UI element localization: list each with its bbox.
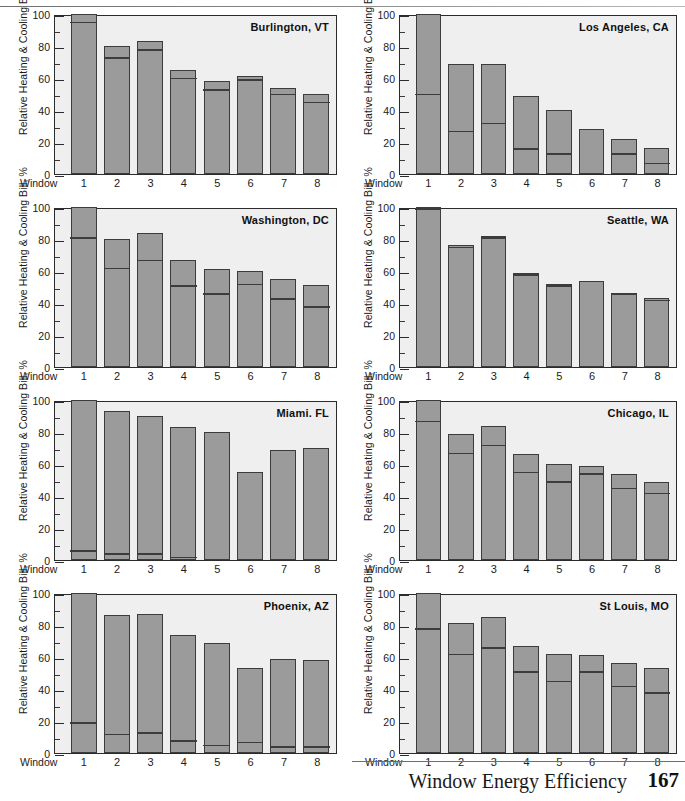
bar-slot [510,209,543,367]
y-axis-ticks: 020406080100 [369,594,399,754]
y-axis-minor-tick [55,160,60,161]
chart-panel: Relative Heating & Cooling Bill, %020406… [0,202,345,395]
y-axis-major-tick [400,112,409,113]
bar [546,110,571,174]
y-axis-major-tick [55,498,64,499]
bar-slot [167,402,200,560]
y-axis-tick-label: 100 [369,588,395,600]
bar [71,400,97,560]
y-axis-minor-tick [55,450,60,451]
x-axis: Window12345678 [345,563,685,579]
bar [416,400,441,560]
bar [448,245,473,367]
y-axis-tick-label: 40 [24,105,50,117]
bar [513,454,538,560]
x-axis-tick-label: 8 [301,177,334,189]
x-axis-tick-label: 3 [134,370,167,382]
y-axis-minor-tick [55,353,60,354]
bar-slot [608,402,641,560]
y-axis-tick-label: 20 [24,523,50,535]
bar-segment-divider [579,671,605,673]
x-axis-tick-label: 7 [609,177,642,189]
y-axis-spine [54,594,64,754]
bar [611,663,636,753]
y-axis-minor-tick [55,128,60,129]
y-axis-tick-label: 20 [369,716,395,728]
y-axis-minor-tick [400,739,405,740]
x-axis-tick-label: 5 [543,563,576,575]
bar-segment-divider [546,681,572,683]
page-top-rule [0,6,685,7]
bar-slot [412,209,445,367]
bar-slot [67,209,100,367]
bar [270,279,296,367]
y-axis-minor-tick [400,611,405,612]
y-axis-tick-label: 80 [369,427,395,439]
y-axis-major-tick [400,530,409,531]
bar-slot [412,595,445,753]
chart-grid: Relative Heating & Cooling Bill, %020406… [0,9,685,784]
bar-slot [300,595,333,753]
y-axis-major-tick [400,434,409,435]
bar [170,427,196,560]
bar [104,411,130,560]
bar [579,466,604,560]
y-axis-tick-label: 60 [24,459,50,471]
bar-slot [267,595,300,753]
bar-chart: Relative Heating & Cooling Bill, %020406… [345,202,685,395]
bar-segment-divider [270,298,296,300]
y-axis-minor-tick [55,675,60,676]
page-footer: Window Energy Efficiency 167 [0,757,685,801]
chart-panel: Relative Heating & Cooling Bill, %020406… [345,9,685,202]
x-axis-tick-label: 7 [267,177,300,189]
y-axis-major-tick [55,273,64,274]
y-axis-ticks: 020406080100 [369,401,399,561]
bar-series [409,16,676,174]
bar-slot [100,209,133,367]
bar [204,269,230,367]
y-axis-tick-label: 20 [369,330,395,342]
y-axis-ticks: 020406080100 [24,594,54,754]
bar [237,271,263,367]
y-axis-major-tick [400,498,409,499]
y-axis-tick-label: 60 [369,459,395,471]
bar-slot [477,595,510,753]
x-axis-tick-label: 2 [445,563,478,575]
bar-segment-divider [448,131,474,133]
y-axis-major-tick [55,627,64,628]
chart-panel: Relative Heating & Cooling Bill, %020406… [0,395,345,588]
bar [170,260,196,367]
bar-slot [477,402,510,560]
y-axis-tick-label: 80 [369,234,395,246]
x-axis-tick-label: 4 [167,563,200,575]
y-axis-minor-tick [400,707,405,708]
plot-area: Seattle, WA [409,208,677,368]
bar [579,655,604,753]
y-axis-major-tick [400,273,409,274]
bar-segment-divider [104,57,130,59]
y-axis-tick-label: 40 [24,684,50,696]
bar-segment-divider [415,94,441,96]
y-axis-spine [399,15,409,175]
bar-segment-divider [644,300,670,302]
bar-segment-divider [513,274,539,276]
bar-slot [445,16,478,174]
bar-slot [445,209,478,367]
footer-rule [352,761,685,762]
bar-slot [640,209,673,367]
bar-slot [608,209,641,367]
bar-chart: Relative Heating & Cooling Bill, %020406… [345,588,685,781]
x-axis-ticks: 12345678 [64,177,337,189]
y-axis-major-tick [55,144,64,145]
bar-slot [134,16,167,174]
bar-segment-divider [481,237,507,239]
bar-slot [543,209,576,367]
chart-panel: Relative Heating & Cooling Bill, %020406… [345,395,685,588]
x-axis-tick-label: 1 [412,177,445,189]
y-axis-minor-tick [55,96,60,97]
y-axis-minor-tick [55,321,60,322]
y-axis-major-tick [55,530,64,531]
plot-area: St Louis, MO [409,594,677,754]
y-axis-major-tick [55,595,64,596]
x-axis-ticks: 12345678 [409,177,677,189]
